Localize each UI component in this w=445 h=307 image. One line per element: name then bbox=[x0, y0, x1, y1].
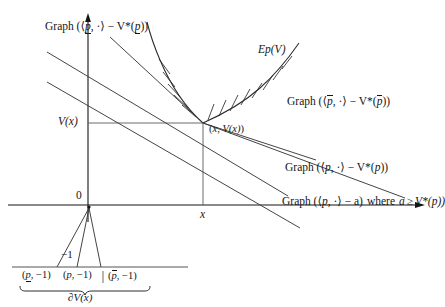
label-subdifferential: ∂V(x) bbox=[68, 292, 92, 303]
graph-p-a-mid: , ·⟩ − a) bbox=[328, 195, 363, 207]
origin-label: 0 bbox=[76, 190, 82, 202]
convex-analysis-figure: Graph (⟨p, ·⟩ − V*(p)) Ep(V) Graph (⟨p, … bbox=[0, 0, 445, 307]
hatch-mark bbox=[174, 95, 188, 108]
graph-p-upper-prefix: Graph (⟨ bbox=[287, 95, 327, 107]
label-graph-p-plain: Graph (⟨p, ·⟩ − V*(p)) bbox=[285, 162, 388, 174]
graph-p-lower-prefix: Graph (⟨ bbox=[45, 20, 85, 32]
graph-p-lower-mid: , ·⟩ − V*( bbox=[91, 20, 135, 32]
vec0-rest: , −1) bbox=[31, 269, 51, 280]
y-axis-value-label: V(x) bbox=[58, 116, 78, 128]
graph-p-a-cond-rhs: V*(p)) bbox=[415, 195, 445, 207]
subdiff-v: V(x) bbox=[73, 291, 92, 303]
graph-p-plain-suffix: )) bbox=[380, 161, 388, 173]
kink-close: ) bbox=[241, 123, 245, 134]
label-kink-point: (x, V(x)) bbox=[209, 124, 244, 135]
kink-v: V(x) bbox=[222, 123, 240, 134]
label-graph-p-a: Graph (⟨p, ·⟩ − a)wherea≥V*(p)) bbox=[282, 196, 445, 208]
fan-ray-p-upper bbox=[89, 208, 101, 267]
graph-p-upper-suffix: )) bbox=[382, 95, 390, 107]
x-tick-label: x bbox=[200, 209, 205, 221]
graph-p-plain-prefix: Graph (⟨ bbox=[285, 161, 325, 173]
label-graph-p-lower: Graph (⟨p, ·⟩ − V*(p)) bbox=[45, 21, 148, 34]
graph-p-lower-suffix: )) bbox=[140, 20, 148, 32]
graph-p-plain-mid: , ·⟩ − V*( bbox=[331, 161, 375, 173]
support-line-p-lower-offset bbox=[47, 82, 300, 228]
vec1-rest: , −1) bbox=[72, 269, 92, 280]
graph-p-a-prefix: Graph (⟨ bbox=[282, 195, 322, 207]
epigraph-left-branch bbox=[147, 22, 203, 123]
graph-p-upper-mid: , ·⟩ − V*( bbox=[333, 95, 377, 107]
epigraph-hatching bbox=[159, 56, 292, 120]
subdifferential-fan bbox=[12, 205, 188, 267]
support-line-p-upper bbox=[110, 37, 203, 123]
label-graph-p-upper: Graph (⟨p, ·⟩ − V*(p)) bbox=[287, 95, 390, 108]
figure-canvas bbox=[0, 0, 445, 307]
epigraph-head: Ep bbox=[258, 43, 271, 55]
vector-label-p-lower: (p, −1) bbox=[22, 270, 51, 282]
hatch-mark bbox=[282, 56, 292, 69]
vector-label-p-upper: (p, −1) bbox=[108, 270, 137, 282]
fan-apex-dot bbox=[87, 205, 90, 208]
hatch-mark bbox=[263, 75, 273, 90]
hatch-mark bbox=[252, 83, 262, 98]
label-epigraph: Ep(V) bbox=[258, 44, 285, 56]
epigraph-arg: (V) bbox=[271, 43, 286, 55]
support-line-p-lower bbox=[47, 52, 288, 196]
vector-label-p-plain: (p, −1) bbox=[63, 270, 92, 281]
minus-one-label: −1 bbox=[61, 249, 73, 260]
fan-ray-p-plain bbox=[77, 208, 89, 267]
graph-p-a-where: where bbox=[363, 195, 399, 207]
vec2-rest: , −1) bbox=[117, 270, 137, 281]
graph-p-a-cond-rel: ≥ bbox=[405, 195, 415, 207]
hatch-mark bbox=[208, 104, 214, 120]
hatch-mark bbox=[159, 59, 170, 74]
graph-p-a-cond-a: a bbox=[399, 195, 405, 207]
hatch-mark bbox=[230, 95, 238, 111]
